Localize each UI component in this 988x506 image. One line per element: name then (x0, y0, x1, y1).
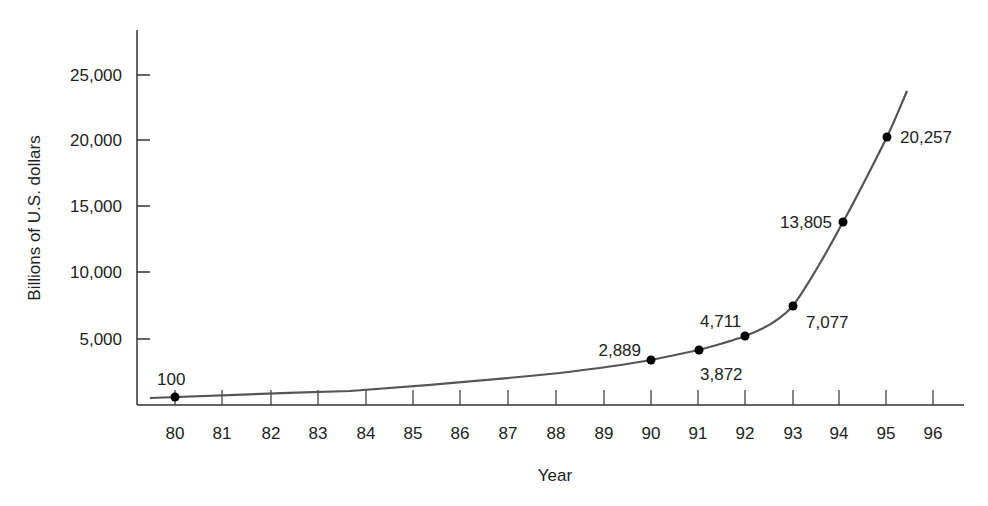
y-tick-label: 15,000 (70, 197, 122, 216)
y-tick-label: 20,000 (70, 131, 122, 150)
data-label-93: 7,077 (806, 313, 849, 332)
x-tick-label: 92 (736, 424, 755, 443)
data-point-91 (695, 346, 704, 355)
x-tick-label: 83 (309, 424, 328, 443)
x-axis-title: Year (538, 466, 573, 485)
x-tick-label: 81 (213, 424, 232, 443)
data-point-95 (883, 133, 892, 142)
data-point-92 (741, 332, 750, 341)
data-markers (171, 133, 892, 402)
data-curve (150, 91, 907, 398)
x-tick-label: 82 (262, 424, 281, 443)
x-tick-label: 86 (451, 424, 470, 443)
x-tick-label: 94 (830, 424, 849, 443)
data-point-80 (171, 393, 180, 402)
x-tick-label: 88 (547, 424, 566, 443)
data-label-95: 20,257 (900, 128, 952, 147)
x-tick-label: 80 (166, 424, 185, 443)
data-label-94: 13,805 (780, 213, 832, 232)
x-tick-label: 91 (689, 424, 708, 443)
data-label-92: 4,711 (700, 312, 741, 331)
y-tick-labels: 25,000 20,000 15,000 10,000 5,000 (70, 66, 122, 349)
data-point-90 (647, 356, 656, 365)
y-axis (137, 30, 150, 405)
x-tick-label: 85 (404, 424, 423, 443)
data-label-80: 100 (157, 370, 185, 389)
x-tick-label: 95 (877, 424, 896, 443)
x-tick-label: 89 (595, 424, 614, 443)
y-axis-title: Billions of U.S. dollars (25, 135, 44, 300)
data-label-91: 3,872 (700, 365, 743, 384)
x-tick-label: 93 (784, 424, 803, 443)
data-point-93 (789, 302, 798, 311)
y-tick-label: 5,000 (79, 330, 122, 349)
data-point-94 (839, 218, 848, 227)
data-labels: 100 2,889 3,872 4,711 7,077 13,805 20,25… (157, 128, 952, 389)
x-tick-labels: 80 81 82 83 84 85 86 87 88 89 90 91 92 9… (166, 424, 943, 443)
x-tick-label: 96 (924, 424, 943, 443)
y-tick-label: 10,000 (70, 263, 122, 282)
x-tick-label: 84 (357, 424, 376, 443)
x-tick-label: 90 (642, 424, 661, 443)
x-axis (137, 390, 964, 405)
chart-canvas: 25,000 20,000 15,000 10,000 5,000 80 81 … (0, 0, 988, 506)
y-tick-label: 25,000 (70, 66, 122, 85)
data-label-90: 2,889 (598, 341, 641, 360)
x-tick-label: 87 (499, 424, 518, 443)
